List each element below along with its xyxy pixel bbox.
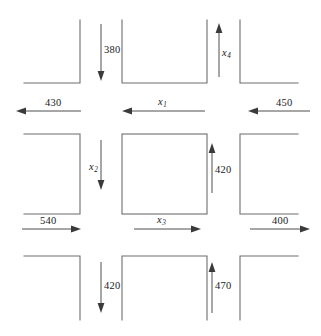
flow-label-x1-sub: 1: [163, 101, 167, 109]
flow-arrowhead-x2: [98, 180, 105, 190]
flow-label-x2-sub: 2: [94, 166, 98, 174]
flow-arrowhead-450: [248, 108, 258, 115]
flow-arrowhead-x4: [216, 23, 223, 33]
flow-label-540: 540: [40, 216, 56, 227]
block-bottom-center: [122, 256, 207, 320]
diagram-canvas: [0, 0, 321, 336]
flow-label-400: 400: [272, 216, 288, 227]
flow-label-380: 380: [104, 45, 120, 56]
flow-arrowhead-470: [209, 262, 216, 272]
flow-arrowhead-380: [98, 71, 105, 81]
flow-arrowhead-540: [71, 226, 81, 233]
flow-label-430: 430: [45, 98, 61, 109]
flow-label-420-bottom: 420: [104, 281, 120, 292]
flow-arrowhead-400: [300, 226, 310, 233]
flow-label-x4-sub: 4: [227, 52, 231, 60]
block-bottom-right: [240, 256, 298, 320]
block-top-left: [24, 20, 80, 83]
flow-label-x4: x4: [222, 48, 231, 59]
block-middle-right: [240, 134, 298, 214]
flow-arrowhead-x3: [191, 226, 201, 233]
flow-arrowhead-x1: [122, 108, 132, 115]
flow-label-470: 470: [215, 281, 231, 292]
flow-arrowhead-420-bottom: [98, 303, 105, 313]
block-center: [122, 134, 207, 214]
flow-arrowhead-420-right: [209, 143, 216, 153]
block-bottom-left: [24, 256, 80, 320]
flow-arrowhead-430: [16, 108, 26, 115]
flow-label-x3: x3: [157, 215, 166, 226]
block-top-center: [122, 20, 207, 83]
traffic-flow-diagram: 430 x1 450 540 x3 400 380 x4 x2 420 420 …: [0, 0, 321, 336]
flow-label-x3-sub: 3: [162, 219, 166, 227]
block-top-right: [240, 20, 298, 83]
block-middle-left: [24, 134, 80, 214]
flow-label-x1: x1: [158, 97, 167, 108]
flow-label-x2: x2: [89, 162, 98, 173]
flow-label-450: 450: [276, 98, 292, 109]
flow-label-420-right: 420: [215, 165, 231, 176]
